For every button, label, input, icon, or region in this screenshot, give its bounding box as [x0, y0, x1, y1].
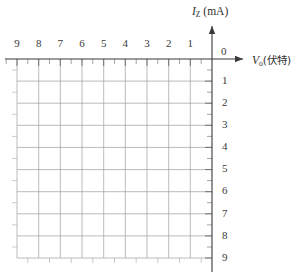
y-tick-label-1: 1	[222, 75, 236, 86]
y-axis-major-ticks	[205, 81, 212, 258]
x-axis-subscript: o	[259, 59, 263, 68]
x-tick-label-3: 3	[140, 38, 154, 49]
y-tick-label-4: 4	[222, 141, 236, 152]
y-tick-label-3: 3	[222, 119, 236, 130]
x-tick-label-2: 2	[162, 38, 176, 49]
x-tick-label-4: 4	[118, 38, 132, 49]
x-tick-label-1: 1	[183, 38, 197, 49]
bottom-edge-ticks	[28, 258, 201, 263]
y-tick-label-6: 6	[222, 185, 236, 196]
y-axis-unit: (mA)	[203, 5, 228, 17]
y-tick-label-8: 8	[222, 230, 236, 241]
x-axis-symbol: V	[252, 54, 259, 66]
y-tick-label-9: 9	[222, 252, 236, 263]
y-tick-label-5: 5	[222, 163, 236, 174]
x-tick-label-6: 6	[75, 38, 89, 49]
y-tick-label-7: 7	[222, 208, 236, 219]
origin-label: 0	[221, 45, 227, 57]
x-axis-title: Vo(伏特)	[252, 52, 291, 67]
graph-figure: 9 8 7 6 5 4 3 2 1 0 1 2 3 4 5 6 7 8 9 IZ…	[0, 0, 305, 280]
x-axis-unit: (伏特)	[263, 54, 291, 66]
y-axis-subscript: Z	[196, 10, 201, 19]
x-tick-label-9: 9	[10, 38, 24, 49]
y-tick-label-2: 2	[222, 97, 236, 108]
x-tick-label-7: 7	[53, 38, 67, 49]
y-axis-minor-ticks	[207, 70, 212, 247]
grid-vertical-lines	[17, 59, 190, 258]
y-axis-arrowhead	[209, 26, 215, 34]
x-tick-label-8: 8	[32, 38, 46, 49]
x-axis-arrowhead	[235, 56, 243, 62]
y-axis-title: IZ (mA)	[192, 5, 228, 17]
x-axis-major-ticks	[17, 59, 190, 66]
grid-horizontal-lines	[17, 81, 212, 258]
left-edge-ticks	[12, 70, 17, 247]
x-tick-label-5: 5	[97, 38, 111, 49]
